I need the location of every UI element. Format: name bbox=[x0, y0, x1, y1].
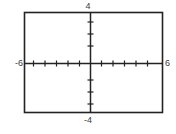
y-axis-min-label: -4 bbox=[0, 116, 176, 125]
coordinate-plane-svg bbox=[0, 0, 176, 134]
graph-figure: 4 -4 -6 6 bbox=[0, 0, 176, 134]
y-axis-max-label: 4 bbox=[0, 2, 176, 11]
x-axis-max-label: 6 bbox=[165, 59, 176, 68]
x-axis-min-label: -6 bbox=[2, 59, 23, 68]
